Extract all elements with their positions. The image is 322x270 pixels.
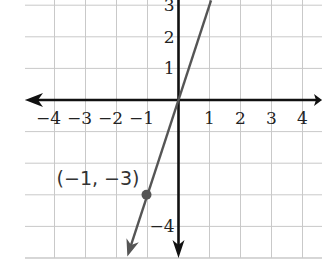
y-tick-label: 3 xyxy=(164,0,175,15)
x-tick-label: 1 xyxy=(204,108,215,128)
x-tick-label: −1 xyxy=(129,108,154,128)
x-tick-label: 2 xyxy=(235,108,246,128)
data-point xyxy=(142,190,152,200)
y-tick-label: 1 xyxy=(164,58,175,78)
y-tick-label: −4 xyxy=(149,216,174,236)
x-tick-label: 3 xyxy=(266,108,277,128)
x-tick-label: −4 xyxy=(36,108,61,128)
x-tick-label: −3 xyxy=(67,108,92,128)
y-tick-label: 2 xyxy=(164,27,175,47)
x-tick-label: 4 xyxy=(297,108,308,128)
x-tick-label: −2 xyxy=(98,108,123,128)
point-label: (−1, −3) xyxy=(57,167,140,189)
coordinate-plane: −4−3−2−11234321−4 (−1, −3) xyxy=(0,0,322,270)
